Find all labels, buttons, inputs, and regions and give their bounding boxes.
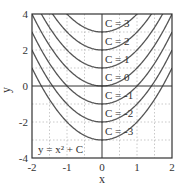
curve-label: C = -2 [105, 107, 133, 119]
x-tick-label: -2 [27, 161, 36, 173]
zero-axes [32, 14, 172, 158]
x-tick-label: 2 [169, 161, 175, 173]
curve-label: C = -1 [105, 89, 133, 101]
y-tick-label: -2 [19, 116, 28, 128]
x-tick-label: -1 [62, 161, 71, 173]
equation-annotation: y = x² + C [38, 143, 83, 155]
curve-label: C = 2 [105, 35, 130, 47]
y-axis-label: y [0, 87, 13, 93]
y-tick-label: -4 [19, 152, 29, 164]
curve-label: C = -3 [105, 125, 134, 137]
y-tick-label: 0 [23, 80, 29, 92]
chart: C = 3C = 2C = 1C = 0C = -1C = -2C = -3 -… [0, 0, 182, 193]
y-tick-label: 4 [23, 8, 29, 20]
x-tick-label: 1 [134, 161, 140, 173]
plot-svg: C = 3C = 2C = 1C = 0C = -1C = -2C = -3 -… [0, 0, 182, 193]
y-tick-label: 2 [23, 44, 29, 56]
curve-label: C = 0 [105, 71, 130, 83]
curve-label: C = 3 [105, 17, 130, 29]
curve-label: C = 1 [105, 53, 130, 65]
x-axis-label: x [99, 172, 105, 186]
